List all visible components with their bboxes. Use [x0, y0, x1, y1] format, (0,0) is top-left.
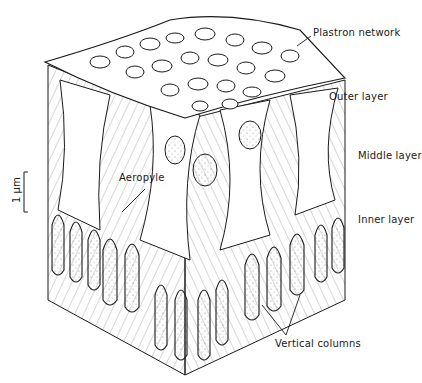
label-inner-layer: Inner layer [358, 214, 414, 225]
label-aeropyle: Aeropyle [119, 172, 165, 183]
label-vertical-columns: Vertical columns [275, 338, 361, 349]
label-plastron-network: Plastron network [313, 27, 400, 38]
label-outer-layer: Outer layer [329, 91, 388, 102]
scale-bar [24, 172, 28, 212]
label-middle-layer: Middle layer [358, 150, 422, 161]
scale-bar-label: 1 μm [11, 177, 22, 203]
